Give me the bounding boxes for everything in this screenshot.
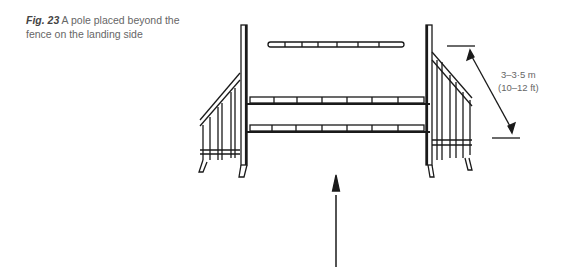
lower-rail (246, 125, 430, 132)
double-headed-arrow-icon (447, 46, 520, 138)
landing-pole (268, 42, 404, 47)
left-wing (199, 25, 247, 177)
up-arrow-icon (333, 175, 340, 267)
right-wing (426, 25, 472, 177)
fence-illustration (0, 0, 575, 270)
upper-rail (246, 97, 430, 104)
